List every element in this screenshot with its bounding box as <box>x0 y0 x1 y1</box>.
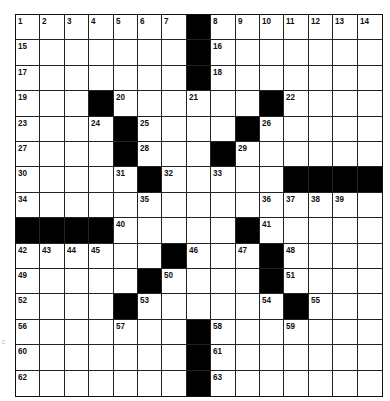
grid-cell[interactable] <box>162 320 186 345</box>
grid-cell[interactable] <box>114 193 138 218</box>
grid-cell[interactable] <box>358 345 382 370</box>
grid-cell[interactable]: 51 <box>284 269 308 294</box>
grid-cell[interactable] <box>358 294 382 319</box>
grid-cell[interactable] <box>114 345 138 370</box>
grid-cell[interactable] <box>260 167 284 192</box>
grid-cell[interactable] <box>89 345 113 370</box>
grid-cell[interactable]: 27 <box>16 142 40 167</box>
grid-cell[interactable] <box>211 218 235 243</box>
grid-cell[interactable] <box>65 269 89 294</box>
grid-cell[interactable] <box>333 142 357 167</box>
grid-cell[interactable]: 11 <box>284 15 308 40</box>
grid-cell[interactable] <box>309 66 333 91</box>
grid-cell[interactable] <box>284 142 308 167</box>
grid-cell[interactable] <box>187 294 211 319</box>
grid-cell[interactable] <box>236 40 260 65</box>
grid-cell[interactable] <box>114 40 138 65</box>
grid-cell[interactable]: 25 <box>138 117 162 142</box>
grid-cell[interactable] <box>162 371 186 396</box>
grid-cell[interactable]: 5 <box>114 15 138 40</box>
grid-cell[interactable]: 49 <box>16 269 40 294</box>
grid-cell[interactable]: 42 <box>16 244 40 269</box>
grid-cell[interactable]: 10 <box>260 15 284 40</box>
grid-cell[interactable] <box>333 294 357 319</box>
grid-cell[interactable] <box>309 244 333 269</box>
grid-cell[interactable] <box>284 66 308 91</box>
grid-cell[interactable]: 44 <box>65 244 89 269</box>
grid-cell[interactable] <box>89 167 113 192</box>
grid-cell[interactable] <box>309 117 333 142</box>
grid-cell[interactable] <box>236 320 260 345</box>
grid-cell[interactable] <box>236 91 260 116</box>
grid-cell[interactable]: 38 <box>309 193 333 218</box>
grid-cell[interactable] <box>138 218 162 243</box>
grid-cell[interactable]: 63 <box>211 371 235 396</box>
grid-cell[interactable]: 12 <box>309 15 333 40</box>
grid-cell[interactable] <box>358 320 382 345</box>
grid-cell[interactable] <box>358 244 382 269</box>
grid-cell[interactable] <box>187 193 211 218</box>
grid-cell[interactable]: 39 <box>333 193 357 218</box>
grid-cell[interactable] <box>358 269 382 294</box>
grid-cell[interactable] <box>65 294 89 319</box>
grid-cell[interactable]: 52 <box>16 294 40 319</box>
grid-cell[interactable] <box>138 66 162 91</box>
grid-cell[interactable] <box>333 40 357 65</box>
grid-cell[interactable] <box>138 345 162 370</box>
grid-cell[interactable] <box>138 371 162 396</box>
grid-cell[interactable] <box>114 269 138 294</box>
grid-cell[interactable] <box>89 320 113 345</box>
grid-cell[interactable]: 34 <box>16 193 40 218</box>
grid-cell[interactable] <box>40 117 64 142</box>
grid-cell[interactable]: 22 <box>284 91 308 116</box>
grid-cell[interactable] <box>162 218 186 243</box>
grid-cell[interactable] <box>236 66 260 91</box>
grid-cell[interactable] <box>333 218 357 243</box>
grid-cell[interactable] <box>309 40 333 65</box>
grid-cell[interactable] <box>65 345 89 370</box>
grid-cell[interactable] <box>65 117 89 142</box>
grid-cell[interactable] <box>211 294 235 319</box>
grid-cell[interactable] <box>236 294 260 319</box>
grid-cell[interactable] <box>333 345 357 370</box>
grid-cell[interactable] <box>65 66 89 91</box>
grid-cell[interactable]: 33 <box>211 167 235 192</box>
grid-cell[interactable]: 47 <box>236 244 260 269</box>
grid-cell[interactable]: 37 <box>284 193 308 218</box>
grid-cell[interactable]: 59 <box>284 320 308 345</box>
grid-cell[interactable] <box>358 91 382 116</box>
grid-cell[interactable] <box>333 269 357 294</box>
grid-cell[interactable] <box>211 244 235 269</box>
grid-cell[interactable]: 24 <box>89 117 113 142</box>
grid-cell[interactable] <box>114 66 138 91</box>
grid-cell[interactable] <box>284 371 308 396</box>
grid-cell[interactable] <box>40 294 64 319</box>
grid-cell[interactable] <box>260 142 284 167</box>
grid-cell[interactable] <box>138 244 162 269</box>
grid-cell[interactable]: 53 <box>138 294 162 319</box>
grid-cell[interactable]: 58 <box>211 320 235 345</box>
grid-cell[interactable]: 21 <box>187 91 211 116</box>
grid-cell[interactable] <box>211 117 235 142</box>
grid-cell[interactable] <box>358 193 382 218</box>
grid-cell[interactable] <box>40 193 64 218</box>
grid-cell[interactable]: 41 <box>260 218 284 243</box>
grid-cell[interactable]: 46 <box>187 244 211 269</box>
grid-cell[interactable]: 32 <box>162 167 186 192</box>
grid-cell[interactable] <box>65 91 89 116</box>
grid-cell[interactable]: 60 <box>16 345 40 370</box>
grid-cell[interactable] <box>40 269 64 294</box>
grid-cell[interactable]: 50 <box>162 269 186 294</box>
grid-cell[interactable]: 13 <box>333 15 357 40</box>
grid-cell[interactable] <box>260 345 284 370</box>
grid-cell[interactable] <box>309 320 333 345</box>
grid-cell[interactable] <box>309 345 333 370</box>
grid-cell[interactable] <box>309 142 333 167</box>
grid-cell[interactable]: 14 <box>358 15 382 40</box>
grid-cell[interactable] <box>211 91 235 116</box>
grid-cell[interactable] <box>309 218 333 243</box>
grid-cell[interactable] <box>138 91 162 116</box>
grid-cell[interactable] <box>138 320 162 345</box>
grid-cell[interactable] <box>162 66 186 91</box>
grid-cell[interactable]: 28 <box>138 142 162 167</box>
